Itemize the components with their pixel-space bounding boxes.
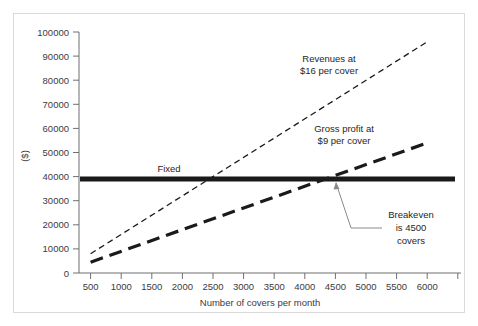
x-tick-label-1500: 1500 <box>141 281 162 292</box>
x-axis-title: Number of covers per month <box>200 297 320 308</box>
annotation-breakeven: Breakeven is 4500 covers <box>334 182 434 246</box>
y-tick-label-70000: 70000 <box>43 99 69 110</box>
x-tick-label-5500: 5500 <box>386 281 407 292</box>
y-axis-title: ($) <box>19 150 30 162</box>
y-tick-label-80000: 80000 <box>43 75 69 86</box>
x-tick-label-2500: 2500 <box>202 281 223 292</box>
y-tick-label-100000: 100000 <box>37 27 69 38</box>
x-tick-label-4500: 4500 <box>325 281 346 292</box>
annotation-gross-profit-line2: $9 per cover <box>318 135 371 146</box>
series-gross-profit-line <box>91 143 428 262</box>
y-tick-label-90000: 90000 <box>43 51 69 62</box>
y-tick-label-0: 0 <box>64 268 69 279</box>
annotation-revenues-line1: Revenues at <box>302 53 356 64</box>
y-tick-label-30000: 30000 <box>43 195 69 206</box>
annotation-fixed: Fixed <box>157 163 180 174</box>
x-tick-label-3500: 3500 <box>264 281 285 292</box>
x-tick-label-500: 500 <box>83 281 99 292</box>
x-tick-label-4000: 4000 <box>294 281 315 292</box>
y-axis: 100000 90000 80000 70000 60000 50000 400… <box>19 27 79 279</box>
annotation-breakeven-line3: covers <box>397 235 425 246</box>
series-revenues-line <box>91 42 428 254</box>
x-axis: 500 1000 1500 2000 2500 3000 3500 4000 4… <box>79 273 461 308</box>
breakeven-arrow-head <box>334 182 340 190</box>
annotation-gross-profit-line1: Gross profit at <box>314 123 374 134</box>
annotation-revenues-line2: $16 per cover <box>300 65 358 76</box>
annotation-revenues: Revenues at $16 per cover <box>300 53 358 76</box>
breakeven-chart: 100000 90000 80000 70000 60000 50000 400… <box>14 14 466 314</box>
chart-figure: 100000 90000 80000 70000 60000 50000 400… <box>13 13 465 313</box>
annotation-breakeven-line2: is 4500 <box>396 222 427 233</box>
annotation-breakeven-line1: Breakeven <box>388 209 433 220</box>
y-tick-label-10000: 10000 <box>43 243 69 254</box>
x-tick-label-1000: 1000 <box>111 281 132 292</box>
breakeven-leader-line <box>336 183 382 228</box>
x-tick-label-5000: 5000 <box>355 281 376 292</box>
annotation-gross-profit: Gross profit at $9 per cover <box>314 123 374 146</box>
x-tick-label-6000: 6000 <box>417 281 438 292</box>
y-tick-label-50000: 50000 <box>43 147 69 158</box>
y-tick-label-40000: 40000 <box>43 171 69 182</box>
y-tick-label-60000: 60000 <box>43 123 69 134</box>
x-tick-label-2000: 2000 <box>172 281 193 292</box>
y-tick-label-20000: 20000 <box>43 219 69 230</box>
x-tick-label-3000: 3000 <box>233 281 254 292</box>
